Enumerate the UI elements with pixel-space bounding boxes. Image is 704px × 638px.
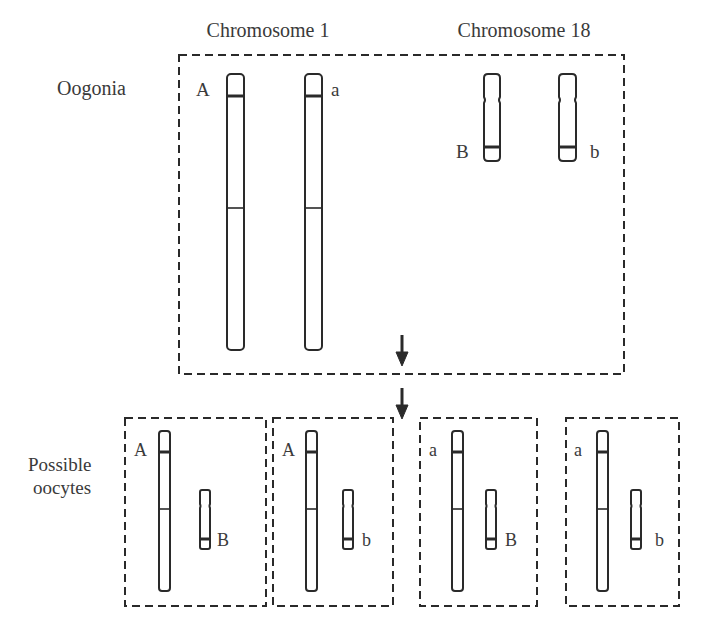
label-oogonia: Oogonia — [57, 77, 126, 100]
meiosis-diagram: Chromosome 1 Chromosome 18 Oogonia A a B — [0, 0, 704, 638]
oocyte-cell-4: a b — [566, 418, 679, 606]
label-possible: Possible — [28, 454, 91, 475]
label-oocytes: oocytes — [33, 477, 91, 498]
chromosome-1-homolog-A — [227, 74, 244, 350]
allele-label: B — [505, 530, 517, 550]
allele-label: A — [134, 440, 147, 460]
arrow-down-icon — [396, 388, 408, 419]
oocyte-cell-1: A B — [125, 418, 266, 606]
allele-label: B — [456, 141, 469, 162]
allele-label: b — [590, 141, 600, 162]
allele-label: a — [429, 440, 437, 460]
allele-label: A — [282, 440, 295, 460]
allele-label: b — [655, 530, 664, 550]
arrow-down-icon — [396, 335, 408, 366]
chromosome-1-homolog-a — [305, 74, 322, 350]
allele-label: B — [217, 530, 229, 550]
header-chromosome-18: Chromosome 18 — [458, 19, 591, 41]
oocyte-cell-3: a B — [420, 418, 537, 606]
allele-label: a — [574, 440, 582, 460]
header-chromosome-1: Chromosome 1 — [207, 19, 330, 41]
allele-label: a — [331, 79, 340, 100]
allele-label: b — [362, 530, 371, 550]
allele-label: A — [196, 79, 210, 100]
oocyte-dashed-box — [566, 418, 679, 606]
oocyte-cell-2: A b — [273, 418, 393, 606]
chromosome-18-homolog-b — [559, 74, 576, 161]
chromosome-18-homolog-B — [484, 74, 500, 161]
oogonia-cell: A a B b — [179, 55, 624, 374]
oocyte-dashed-box — [420, 418, 537, 606]
oogonia-dashed-box — [179, 55, 624, 374]
